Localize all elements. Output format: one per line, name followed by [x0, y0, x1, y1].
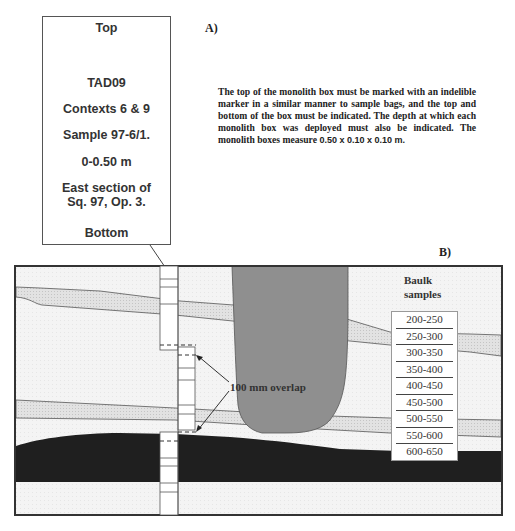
baulk-title-line2: samples: [404, 287, 464, 301]
baulk-sample-row: 400-450: [396, 378, 453, 395]
label-depth: 0-0.50 m: [43, 155, 170, 170]
monolith-label-card: Top TAD09 Contexts 6 & 9 Sample 97-6/1. …: [42, 16, 171, 245]
card-connector-line: [150, 245, 167, 270]
baulk-samples-title: Baulk samples: [404, 273, 464, 301]
note-dimensions: 0.50 x 0.10 x 0.10 m.: [319, 135, 405, 145]
label-location-line2: Sq. 97, Op. 3.: [43, 195, 170, 210]
monolith-instructions-note: The top of the monolith box must be mark…: [218, 86, 476, 146]
baulk-sample-row: 550-600: [396, 428, 453, 445]
overlap-arrow-lower: [198, 391, 229, 430]
label-location-line1: East section of: [43, 181, 170, 196]
monolith-box-3: [160, 432, 178, 515]
monolith-box-1: [160, 266, 178, 350]
overlap-arrow-upper: [198, 356, 229, 382]
baulk-sample-row: 300-350: [396, 345, 453, 362]
monolith-box-2: [178, 347, 195, 430]
pit-feature: [232, 266, 348, 433]
baulk-sample-row: 250-300: [396, 329, 453, 346]
label-contexts: Contexts 6 & 9: [43, 102, 170, 117]
panel-b-letter: B): [439, 245, 451, 260]
label-bottom: Bottom: [43, 226, 170, 241]
baulk-sample-row: 350-400: [396, 362, 453, 379]
overlap-label: 100 mm overlap: [230, 381, 306, 393]
baulk-samples-table: 200-250 250-300 300-350 350-400 400-450 …: [391, 311, 458, 461]
baulk-sample-row: 450-500: [396, 395, 453, 412]
baulk-sample-row: 500-550: [396, 411, 453, 428]
label-top: Top: [43, 21, 170, 36]
baulk-sample-row: 600-650: [396, 444, 453, 460]
panel-a-letter: A): [205, 21, 218, 36]
label-site-code: TAD09: [43, 76, 170, 91]
label-sample: Sample 97-6/1.: [43, 128, 170, 143]
baulk-title-line1: Baulk: [404, 273, 464, 287]
baulk-sample-row: 200-250: [396, 312, 453, 329]
